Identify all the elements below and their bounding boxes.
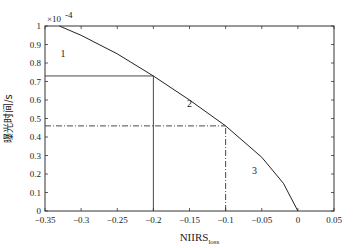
- x-tick-label: 0: [296, 215, 301, 225]
- y-tick-label: 0.7: [30, 77, 42, 87]
- y-multiplier: ×10: [47, 14, 62, 24]
- y-tick-label: 0: [37, 206, 42, 216]
- y-tick-label: 0.5: [30, 114, 42, 124]
- y-tick-label: 0.2: [30, 169, 41, 179]
- x-axis-title-subscript: loss: [208, 238, 219, 246]
- y-tick-label: 0.9: [30, 40, 42, 50]
- y-multiplier-exponent: -4: [65, 10, 73, 20]
- x-tick-label: −0.05: [251, 215, 272, 225]
- y-tick-label: 0.1: [30, 188, 41, 198]
- y-tick-label: 0.3: [30, 151, 42, 161]
- x-tick-label: −0.35: [35, 215, 56, 225]
- region-label-1: 1: [61, 48, 66, 59]
- x-tick-label: −0.2: [145, 215, 161, 225]
- y-tick-label: 0.8: [30, 58, 42, 68]
- y-tick-label: 0.6: [30, 95, 42, 105]
- region-label-2: 2: [187, 98, 192, 109]
- y-tick-label: 1: [37, 21, 42, 31]
- x-axis-title: NIIRSloss: [180, 231, 220, 246]
- x-tick-label: 0.05: [326, 215, 342, 225]
- chart-container: −0.35−0.3−0.25−0.2−0.15−0.1−0.0500.0500.…: [0, 0, 356, 248]
- y-axis-title: 曝光时间/s: [2, 94, 14, 143]
- data-curve: [59, 26, 298, 211]
- exposure-time-chart: −0.35−0.3−0.25−0.2−0.15−0.1−0.0500.0500.…: [0, 0, 356, 248]
- x-tick-label: −0.15: [179, 215, 200, 225]
- y-tick-label: 0.4: [30, 132, 42, 142]
- x-tick-label: −0.3: [73, 215, 90, 225]
- x-tick-label: −0.25: [107, 215, 128, 225]
- x-tick-label: −0.1: [217, 215, 233, 225]
- plot-frame: [45, 26, 334, 211]
- region-label-3: 3: [252, 165, 257, 176]
